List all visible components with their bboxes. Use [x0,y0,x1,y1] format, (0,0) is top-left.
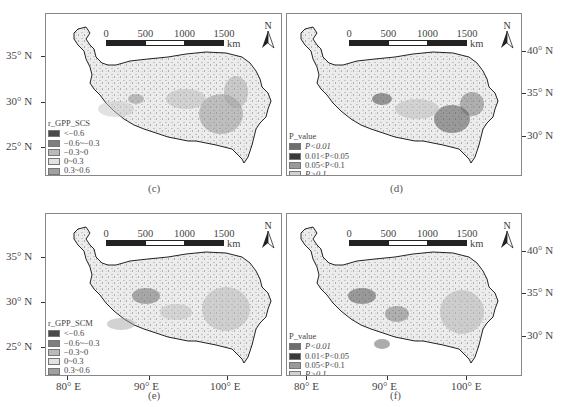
lat-label: 30° N [6,295,32,307]
tick [41,56,45,57]
north-arrow-icon [500,31,514,49]
tick [41,347,45,348]
lat-label: 35° N [6,250,32,262]
legend-c: r_GPP_SCS <−0.6 −0.6~−0.3 −0.3~0 0~0.3 0… [48,119,99,176]
scale-unit: km [227,238,240,249]
caption-c: (c) [148,182,160,194]
north-arrow: N [499,220,515,250]
scale-unit: km [227,38,240,49]
lat-label: 25° N [6,340,32,352]
lon-label: 80° E [56,380,81,392]
lat-label: 35° N [527,86,553,98]
lon-label: 100° E [451,380,481,392]
tick [522,251,526,252]
tick [41,147,45,148]
north-arrow: N [260,20,276,50]
tick [41,257,45,258]
tick [41,302,45,303]
scale-bar: 0 500 1000 1500 km [349,28,467,46]
north-arrow: N [260,220,276,250]
lat-label: 40° N [527,44,553,56]
scale-bar: 0 500 1000 1500 km [349,228,467,246]
caption-f: (f) [390,389,401,401]
scale-unit: km [470,238,483,249]
tick [41,102,45,103]
north-arrow-icon [261,231,275,249]
scale-bar: 0 500 1000 1500 km [106,28,224,46]
tick [522,93,526,94]
scale-bar: 0 500 1000 1500 km [106,228,224,246]
north-arrow: N [499,20,515,50]
legend-e: r_GPP_SCM <−0.6 −0.6~−0.3 −0.3~0 0~0.3 0… [48,319,99,376]
legend-d: P_value P<0.01 0.01<P<0.05 0.05<P<0.1 P>… [289,132,349,176]
lat-label: 30° N [527,129,553,141]
map-panel-f: 0 500 1000 1500 km N P_value P<0.01 0.01… [286,213,522,376]
lat-label: 30° N [527,329,553,341]
lat-label: 30° N [6,95,32,107]
scale-unit: km [470,38,483,49]
legend-item: P>0.1 [289,370,349,376]
map-panel-c: 0 500 1000 1500 km N r_GPP_SCS <−0.6 −0.… [45,13,282,176]
tick [522,336,526,337]
legend-f: P_value P<0.01 0.01<P<0.05 0.05<P<0.1 P>… [289,332,349,376]
map-panel-e: 0 500 1000 1500 km N r_GPP_SCM <−0.6 −0.… [45,213,282,376]
map-panel-d: 0 500 1000 1500 km N P_value P<0.01 0.01… [286,13,522,176]
lat-label: 40° N [527,244,553,256]
tick [522,51,526,52]
caption-d: (d) [390,182,403,194]
caption-e: (e) [148,389,160,401]
north-arrow-icon [500,231,514,249]
lat-label: 35° N [527,286,553,298]
north-arrow-icon [261,31,275,49]
tick [522,293,526,294]
lon-label: 80° E [294,380,319,392]
lat-label: 35° N [6,49,32,61]
lat-label: 25° N [6,140,32,152]
lon-label: 100° E [210,380,240,392]
tick [522,136,526,137]
legend-item: P>0.1 [289,170,349,176]
